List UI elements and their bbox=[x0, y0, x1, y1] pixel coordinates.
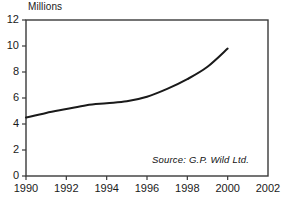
cruise-passengers-line-chart: Millions 024681012 199019921994199619982… bbox=[0, 0, 281, 199]
x-tick-label: 2002 bbox=[251, 183, 281, 194]
y-tick-label: 12 bbox=[1, 14, 19, 25]
x-tick-label: 1992 bbox=[49, 183, 83, 194]
plot-area bbox=[0, 0, 281, 199]
x-tick-label: 1996 bbox=[130, 183, 164, 194]
y-tick-label: 2 bbox=[1, 144, 19, 155]
y-tick-label: 6 bbox=[1, 92, 19, 103]
y-tick-label: 8 bbox=[1, 66, 19, 77]
x-tick-label: 1994 bbox=[90, 183, 124, 194]
x-tick-label: 2000 bbox=[211, 183, 245, 194]
x-tick-label: 1998 bbox=[170, 183, 204, 194]
x-tick-label: 1990 bbox=[9, 183, 43, 194]
y-tick-label: 4 bbox=[1, 118, 19, 129]
y-tick-label: 0 bbox=[1, 170, 19, 181]
y-tick-label: 10 bbox=[1, 40, 19, 51]
source-attribution: Source: G.P. Wild Ltd. bbox=[152, 154, 249, 165]
axis-lines bbox=[26, 20, 268, 176]
data-series-group bbox=[26, 49, 228, 118]
data-line bbox=[26, 49, 228, 118]
